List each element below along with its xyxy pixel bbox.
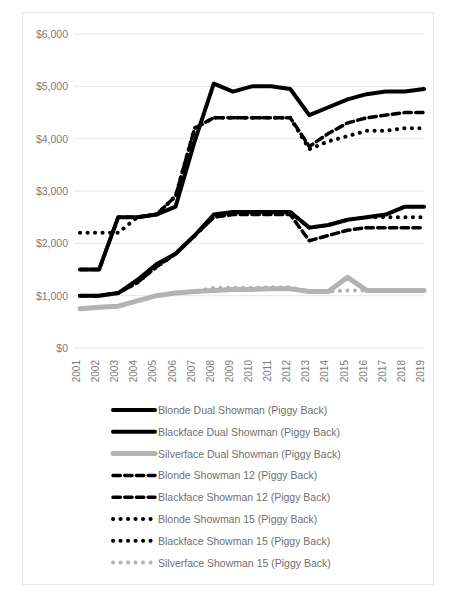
legend-label: Blackface Showman 15 (Piggy Back) [158, 535, 330, 547]
legend-label: Silverface Showman 15 (Piggy Back) [158, 557, 331, 569]
legend-item[interactable]: Silverface Dual Showman (Piggy Back) [113, 448, 341, 460]
gridlines [74, 34, 424, 348]
legend-item[interactable]: Blackface Showman 12 (Piggy Back) [113, 491, 330, 503]
legend-label: Silverface Dual Showman (Piggy Back) [158, 448, 341, 460]
legend-label: Blonde Dual Showman (Piggy Back) [158, 404, 327, 416]
line-chart: $6,000$5,000$4,000$3,000$2,000$1,000$0 2… [0, 0, 453, 603]
chart-plot-area: $6,000$5,000$4,000$3,000$2,000$1,000$0 2… [0, 0, 453, 603]
y-axis-tick-label: $4,000 [36, 133, 68, 145]
x-axis-tick-label: 2001 [71, 360, 82, 383]
x-axis-tick-label: 2017 [377, 360, 388, 383]
legend-item[interactable]: Silverface Showman 15 (Piggy Back) [113, 557, 331, 569]
legend-item[interactable]: Blackface Dual Showman (Piggy Back) [113, 426, 340, 438]
x-axis-tick-label: 2012 [281, 360, 292, 383]
y-axis-tick-label: $6,000 [36, 28, 68, 40]
x-axis-tick-label: 2002 [90, 360, 101, 383]
x-axis-tick-label: 2003 [109, 360, 120, 383]
y-axis-tick-label: $0 [56, 342, 68, 354]
x-axis-tick-label: 2013 [300, 360, 311, 383]
legend-label: Blackface Dual Showman (Piggy Back) [158, 426, 340, 438]
x-axis-tick-label: 2015 [339, 360, 350, 383]
x-axis-tick-label: 2004 [128, 360, 139, 383]
x-axis-tick-label: 2016 [358, 360, 369, 383]
legend-label: Blonde Showman 12 (Piggy Back) [158, 469, 317, 481]
x-axis-tick-label: 2018 [396, 360, 407, 383]
x-axis-tick-label: 2009 [224, 360, 235, 383]
x-axis-tick-label: 2011 [262, 360, 273, 382]
x-axis-tick-label: 2005 [147, 360, 158, 383]
x-axis-tick-label: 2014 [319, 360, 330, 383]
x-axis-tick-label: 2006 [167, 360, 178, 383]
legend-item[interactable]: Blonde Dual Showman (Piggy Back) [113, 404, 327, 416]
y-axis-tick-labels: $6,000$5,000$4,000$3,000$2,000$1,000$0 [36, 28, 68, 354]
legend-item[interactable]: Blackface Showman 15 (Piggy Back) [113, 535, 330, 547]
chart-legend: Blonde Dual Showman (Piggy Back)Blackfac… [113, 404, 341, 569]
y-axis-tick-label: $1,000 [36, 290, 68, 302]
legend-item[interactable]: Blonde Showman 15 (Piggy Back) [113, 513, 317, 525]
y-axis-tick-label: $5,000 [36, 80, 68, 92]
y-axis-tick-label: $3,000 [36, 185, 68, 197]
legend-item[interactable]: Blonde Showman 12 (Piggy Back) [113, 469, 317, 481]
legend-label: Blackface Showman 12 (Piggy Back) [158, 491, 330, 503]
y-axis-tick-label: $2,000 [36, 237, 68, 249]
x-axis-tick-label: 2010 [243, 360, 254, 383]
series-group [80, 84, 424, 309]
x-axis-tick-labels: 2001200220032004200520062007200820092010… [71, 360, 426, 383]
x-axis-tick-label: 2019 [415, 360, 426, 383]
x-axis-tick-label: 2007 [186, 360, 197, 383]
x-axis-tick-label: 2008 [205, 360, 216, 383]
legend-label: Blonde Showman 15 (Piggy Back) [158, 513, 317, 525]
series-line [80, 207, 424, 296]
series-line [80, 84, 424, 270]
